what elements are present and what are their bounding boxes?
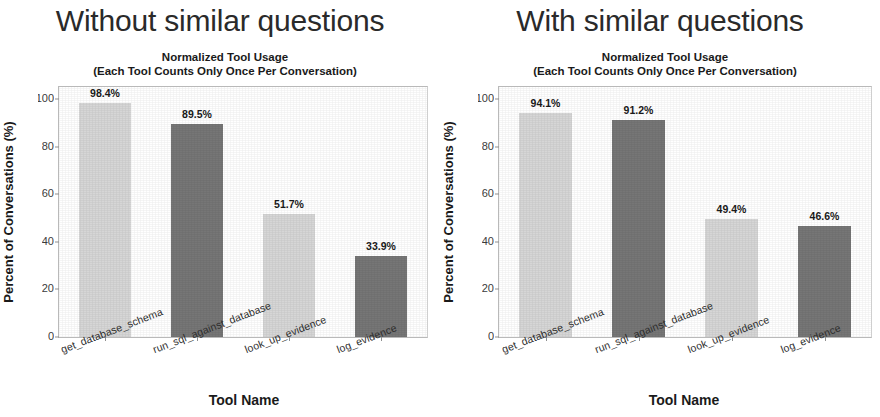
plot-area: 94.1%91.2%49.4%46.6% 020406080100get_dat… — [498, 86, 872, 338]
y-axis-tick-mark — [495, 337, 499, 338]
y-axis-tick-label: 20 — [482, 282, 494, 296]
y-axis-tick-mark — [55, 289, 59, 290]
bar-value-label: 51.7% — [274, 198, 304, 210]
bar-value-label: 46.6% — [810, 210, 840, 222]
bar-value-label: 89.5% — [182, 108, 212, 120]
bar: 98.4% — [79, 103, 131, 337]
chart-title-line2: (Each Tool Counts Only Once Per Conversa… — [456, 64, 874, 78]
y-axis-tick-mark — [55, 194, 59, 195]
chart-title-line1: Normalized Tool Usage — [162, 51, 288, 63]
x-axis-label: Tool Name — [498, 392, 870, 408]
bar-value-label: 94.1% — [531, 97, 561, 109]
y-axis-tick-label: 60 — [42, 187, 54, 201]
y-axis-tick-mark — [495, 289, 499, 290]
bar-value-label: 98.4% — [90, 87, 120, 99]
chart-title-line1: Normalized Tool Usage — [602, 51, 728, 63]
y-axis-tick-mark — [55, 98, 59, 99]
panel-with-similar-questions: With similar questions Normalized Tool U… — [440, 0, 880, 417]
bar: 89.5% — [171, 124, 223, 337]
bar: 46.6% — [798, 226, 851, 337]
y-axis-tick-mark — [495, 194, 499, 195]
chart-title: Normalized Tool Usage (Each Tool Counts … — [16, 50, 434, 78]
plot-area: 98.4%89.5%51.7%33.9% 020406080100get_dat… — [58, 86, 428, 338]
chart-title: Normalized Tool Usage (Each Tool Counts … — [456, 50, 874, 78]
y-axis-tick-label: 100 — [38, 92, 54, 106]
panel-without-similar-questions: Without similar questions Normalized Too… — [0, 0, 440, 417]
chart-title-line2: (Each Tool Counts Only Once Per Conversa… — [16, 64, 434, 78]
y-axis-label: Percent of Conversations (%) — [438, 86, 460, 338]
panel-heading: With similar questions — [440, 2, 880, 40]
bar: 33.9% — [355, 256, 407, 337]
y-axis-tick-label: 60 — [482, 187, 494, 201]
bar-value-label: 91.2% — [624, 104, 654, 116]
y-axis-tick-mark — [495, 98, 499, 99]
y-axis-tick-label: 80 — [42, 140, 54, 154]
y-axis-label: Percent of Conversations (%) — [0, 86, 20, 338]
bar: 91.2% — [612, 120, 665, 337]
y-axis-tick-label: 0 — [488, 330, 494, 344]
y-axis-tick-label: 100 — [478, 92, 494, 106]
y-axis-tick-mark — [495, 146, 499, 147]
y-axis-tick-label: 80 — [482, 140, 494, 154]
x-axis-label: Tool Name — [58, 392, 430, 408]
panel-heading: Without similar questions — [0, 2, 440, 40]
y-axis-tick-label: 40 — [482, 235, 494, 249]
y-axis-tick-mark — [495, 241, 499, 242]
y-axis-tick-label: 20 — [42, 282, 54, 296]
y-axis-tick-mark — [55, 146, 59, 147]
y-axis-tick-label: 40 — [42, 235, 54, 249]
bars-container: 98.4%89.5%51.7%33.9% — [59, 87, 427, 337]
bar-value-label: 33.9% — [366, 240, 396, 252]
bar: 94.1% — [519, 113, 572, 337]
figure-root: Without similar questions Normalized Too… — [0, 0, 880, 417]
y-axis-tick-mark — [55, 337, 59, 338]
bar-value-label: 49.4% — [717, 203, 747, 215]
y-axis-tick-mark — [55, 241, 59, 242]
bars-container: 94.1%91.2%49.4%46.6% — [499, 87, 871, 337]
y-axis-tick-label: 0 — [48, 330, 54, 344]
